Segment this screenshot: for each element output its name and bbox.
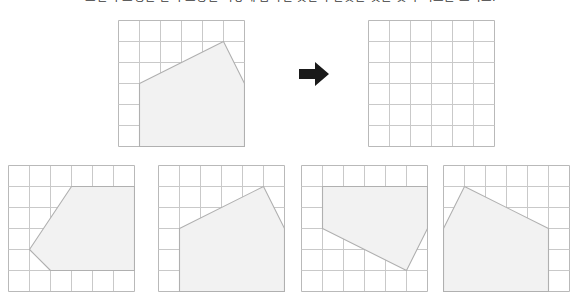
grid-svg [158,165,285,292]
grid-svg [368,20,495,147]
grid-svg [301,165,428,292]
shape-pentagon [140,42,245,147]
question-prompt: 오른쪽 도형은 왼쪽 도형을 어떻게 움직인 것인지 알맞은 것을 찾아 기호를… [0,0,581,6]
grid-panel-option-2[interactable] [158,165,284,291]
grid-svg [443,165,570,292]
shape-pentagon-translated [180,187,285,292]
shape-pentagon-flipped-vertical [323,187,428,271]
shape-pentagon-mirrored-horizontal [444,187,549,292]
grid-panel-option-1[interactable] [8,165,134,291]
grid-panel-option-4[interactable] [443,165,569,291]
grid-panel-target-figure [368,20,494,146]
grid-lines [369,21,495,147]
shape-pentagon-rotated [30,187,135,271]
worksheet-page: 오른쪽 도형은 왼쪽 도형을 어떻게 움직인 것인지 알맞은 것을 찾아 기호를… [0,0,581,305]
grid-svg [118,20,245,147]
grid-svg [8,165,135,292]
grid-panel-option-3[interactable] [301,165,427,291]
arrow-right-icon [297,59,331,89]
grid-panel-source-figure [118,20,244,146]
